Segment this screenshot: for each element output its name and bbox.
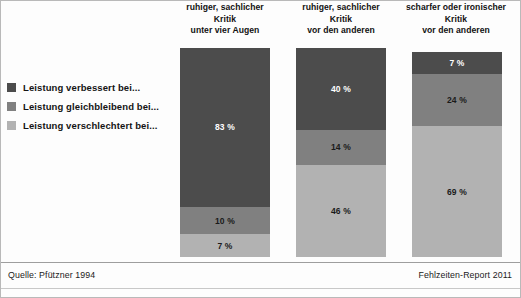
bar-0-label-unchanged: 10 % — [215, 216, 235, 226]
bar-2-segment-worsened: 69 % — [412, 126, 502, 257]
column-header-2-line3: vor den anderen — [392, 25, 520, 37]
bar-2-label-improved: 7 % — [449, 58, 464, 68]
source-note: Quelle: Pfützner 1994 — [8, 270, 95, 280]
report-note: Fehlzeiten-Report 2011 — [419, 270, 512, 280]
column-header-2-line1: scharfer oder ironischer — [392, 2, 520, 14]
column-header-0-line3: unter vier Augen — [165, 25, 285, 37]
stacked-bar-chart-figure: Leistung verbessert bei... Leistung glei… — [0, 0, 521, 298]
legend-item-improved: Leistung verbessert bei... — [7, 80, 177, 95]
bar-2-segment-unchanged: 24 % — [412, 74, 502, 126]
column-header-0: ruhiger, sachlicher Kritik unter vier Au… — [165, 2, 285, 37]
bar-1-label-worsened: 46 % — [331, 206, 351, 216]
column-header-2-line2: Kritik — [392, 14, 520, 26]
bar-1-segment-unchanged: 14 % — [296, 130, 386, 165]
legend-item-worsened: Leistung verschlechtert bei... — [7, 118, 177, 133]
figure-border-left — [0, 0, 1, 298]
bar-0-label-worsened: 7 % — [217, 241, 232, 251]
figure-border-top — [0, 0, 521, 1]
column-header-2: scharfer oder ironischer Kritik vor den … — [392, 2, 520, 37]
stacked-bar-0: 83 % 10 % 7 % — [180, 48, 270, 257]
column-header-1-line2: Kritik — [282, 14, 400, 26]
bar-2-segment-improved: 7 % — [412, 52, 502, 74]
column-header-0-line2: Kritik — [165, 14, 285, 26]
column-header-1-line3: vor den anderen — [282, 25, 400, 37]
stacked-bar-2: 7 % 24 % 69 % — [412, 52, 502, 257]
legend-swatch-worsened-icon — [7, 121, 16, 130]
legend-label-unchanged: Leistung gleichbleibend bei... — [23, 101, 159, 112]
legend-swatch-improved-icon — [7, 83, 16, 92]
bar-0-segment-improved: 83 % — [180, 48, 270, 207]
bar-1-label-unchanged: 14 % — [331, 142, 351, 152]
bar-1-segment-worsened: 46 % — [296, 165, 386, 257]
legend-label-worsened: Leistung verschlechtert bei... — [23, 120, 157, 131]
bar-2-label-unchanged: 24 % — [447, 95, 467, 105]
bar-0-segment-unchanged: 10 % — [180, 207, 270, 235]
column-header-1: ruhiger, sachlicher Kritik vor den ander… — [282, 2, 400, 37]
bar-1-label-improved: 40 % — [331, 84, 351, 94]
legend-label-improved: Leistung verbessert bei... — [23, 82, 140, 93]
bar-0-label-improved: 83 % — [215, 122, 235, 132]
footer-divider-bottom — [1, 288, 520, 289]
bar-2-label-worsened: 69 % — [447, 187, 467, 197]
bar-1-segment-improved: 40 % — [296, 48, 386, 130]
legend-item-unchanged: Leistung gleichbleibend bei... — [7, 99, 177, 114]
bar-0-segment-worsened: 7 % — [180, 234, 270, 257]
chart-legend: Leistung verbessert bei... Leistung glei… — [7, 80, 177, 137]
stacked-bar-1: 40 % 14 % 46 % — [296, 48, 386, 257]
footer-divider — [1, 262, 520, 263]
column-header-0-line1: ruhiger, sachlicher — [165, 2, 285, 14]
column-header-1-line1: ruhiger, sachlicher — [282, 2, 400, 14]
legend-swatch-unchanged-icon — [7, 102, 16, 111]
